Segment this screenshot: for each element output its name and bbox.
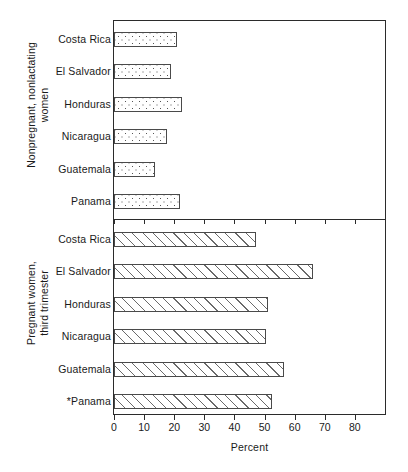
x-tick-mid xyxy=(234,219,235,224)
panel-pregnant-bars xyxy=(114,221,385,414)
x-tick-bottom xyxy=(265,415,266,420)
category-label: El Salvador xyxy=(7,64,111,79)
x-tick-bottom xyxy=(144,415,145,420)
x-tick-label: 30 xyxy=(189,421,219,433)
x-axis-title: Percent xyxy=(113,441,386,453)
category-label: Honduras xyxy=(7,97,111,112)
panel-divider xyxy=(113,219,386,220)
x-tick-bottom xyxy=(355,415,356,420)
x-tick-bottom xyxy=(234,415,235,420)
bar-panama xyxy=(114,394,272,409)
bar-costarica xyxy=(114,32,177,47)
category-labels-bottom: Costa RicaEl SalvadorHondurasNicaraguaGu… xyxy=(5,221,111,414)
category-label: Panama xyxy=(7,194,111,209)
x-tick-label: 0 xyxy=(99,421,129,433)
x-tick-bottom xyxy=(114,415,115,420)
bar-panama xyxy=(114,194,180,209)
x-tick-mid xyxy=(174,219,175,224)
category-label: Honduras xyxy=(7,297,111,312)
x-tick-label: 40 xyxy=(219,421,249,433)
category-label: Costa Rica xyxy=(7,232,111,247)
bar-guatemala xyxy=(114,162,155,177)
bar-costarica xyxy=(114,232,256,247)
category-label: Nicaragua xyxy=(7,329,111,344)
bar-guatemala xyxy=(114,362,284,377)
bar-nicaragua xyxy=(114,129,167,144)
bar-honduras xyxy=(114,297,268,312)
category-labels-top: Costa RicaEl SalvadorHondurasNicaraguaGu… xyxy=(5,21,111,219)
x-tick-mid xyxy=(144,219,145,224)
x-tick-mid xyxy=(325,219,326,224)
x-tick-bottom xyxy=(325,415,326,420)
bar-elsalvador xyxy=(114,264,313,279)
x-tick-label: 80 xyxy=(340,421,370,433)
x-tick-mid xyxy=(355,219,356,224)
bar-nicaragua xyxy=(114,329,266,344)
x-tick-bottom xyxy=(295,415,296,420)
x-tick-label: 10 xyxy=(129,421,159,433)
category-label: Guatemala xyxy=(7,162,111,177)
x-tick-label: 50 xyxy=(250,421,280,433)
x-tick-mid xyxy=(204,219,205,224)
x-tick-bottom xyxy=(174,415,175,420)
x-tick-mid xyxy=(295,219,296,224)
bar-honduras xyxy=(114,97,182,112)
category-label: Costa Rica xyxy=(7,32,111,47)
chart-figure: Nonpregnant, nonlactating women Pregnant… xyxy=(0,0,408,472)
x-tick-label: 70 xyxy=(310,421,340,433)
x-tick-label: 20 xyxy=(159,421,189,433)
category-label: El Salvador xyxy=(7,264,111,279)
x-tick-bottom xyxy=(204,415,205,420)
panel-nonpregnant-bars xyxy=(114,21,385,219)
x-tick-mid xyxy=(114,219,115,224)
category-label: *Panama xyxy=(7,394,111,409)
category-label: Guatemala xyxy=(7,362,111,377)
bar-elsalvador xyxy=(114,64,171,79)
category-label: Nicaragua xyxy=(7,129,111,144)
x-tick-mid xyxy=(265,219,266,224)
x-tick-label: 60 xyxy=(280,421,310,433)
